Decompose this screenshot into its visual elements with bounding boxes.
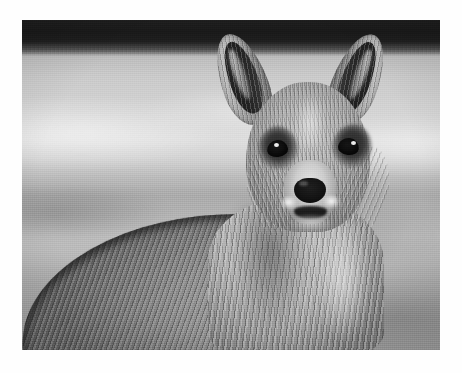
page-root: Black and white photograph of a kangaroo… (0, 0, 462, 373)
kangaroo-muzzle-patch-right (323, 195, 340, 209)
kangaroo-chin (288, 216, 334, 236)
kangaroo-photo (22, 20, 440, 350)
kangaroo-eye-glint-right (351, 141, 356, 145)
kangaroo-eye-glint-left (274, 143, 279, 147)
kangaroo-chest-highlight (322, 226, 380, 350)
kangaroo-nose-highlight (299, 181, 308, 186)
